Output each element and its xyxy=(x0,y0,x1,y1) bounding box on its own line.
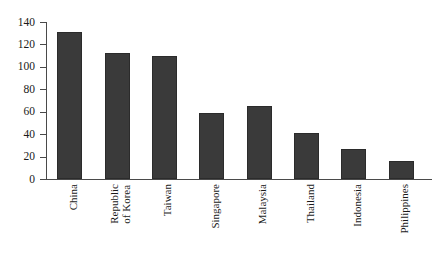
y-axis-tick-label: 40 xyxy=(24,129,41,141)
bar xyxy=(247,106,272,179)
bar xyxy=(199,113,224,179)
bar xyxy=(105,53,130,179)
x-axis-category-label-line: Thailand xyxy=(305,184,317,223)
bar xyxy=(389,161,414,179)
y-axis-tick-label: 60 xyxy=(24,106,41,118)
bar-chart: 140120100806040200 ChinaRepublicof Korea… xyxy=(0,0,435,263)
x-axis-category-label: Indonesia xyxy=(352,184,364,227)
x-axis-category-label: Philippines xyxy=(399,184,411,234)
bar-column xyxy=(199,113,224,179)
y-axis-tick-label: 140 xyxy=(18,17,40,29)
x-axis-category-label-line: Taiwan xyxy=(162,184,174,216)
bar-column xyxy=(389,161,414,179)
bar xyxy=(57,32,82,179)
x-axis-category-label: Malaysia xyxy=(257,184,269,224)
bar xyxy=(341,149,366,179)
x-axis-category-label-line: of Korea xyxy=(121,184,133,224)
plot-area xyxy=(46,22,425,179)
x-axis-category-label: China xyxy=(68,184,80,210)
bar-column xyxy=(57,32,82,179)
x-axis-category-label: Thailand xyxy=(305,184,317,223)
bar-column xyxy=(105,53,130,179)
x-axis-category-label: Republicof Korea xyxy=(109,184,132,224)
x-axis-category-label-line: Malaysia xyxy=(257,184,269,224)
y-axis-tick-label: 120 xyxy=(18,39,40,51)
y-axis-tick: 0 xyxy=(40,179,46,180)
bar xyxy=(152,56,177,179)
x-axis-category-label: Singapore xyxy=(210,184,222,229)
y-axis-tick-label: 20 xyxy=(24,151,41,163)
bar-column xyxy=(152,56,177,179)
x-axis-category-label-line: China xyxy=(68,184,80,210)
y-axis-tick-label: 100 xyxy=(18,62,40,74)
x-axis-category-label: Taiwan xyxy=(162,184,174,216)
x-axis-category-label-line: Indonesia xyxy=(352,184,364,227)
bar xyxy=(294,133,319,179)
x-axis-category-label-line: Republic xyxy=(109,184,121,224)
x-axis-line xyxy=(40,179,432,180)
bar-column xyxy=(341,149,366,179)
bar-column xyxy=(294,133,319,179)
x-axis-category-label-line: Singapore xyxy=(210,184,222,229)
y-axis-tick-label: 80 xyxy=(24,84,41,96)
bar-column xyxy=(247,106,272,179)
x-axis-category-label-line: Philippines xyxy=(399,184,411,234)
y-axis-tick-label: 0 xyxy=(29,174,40,186)
